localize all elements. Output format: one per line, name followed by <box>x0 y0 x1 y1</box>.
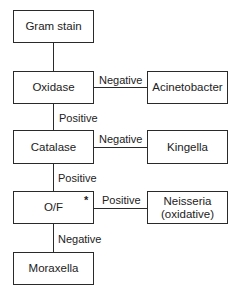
node-of: O/F <box>13 191 94 224</box>
connector-of-to-neisseria <box>94 208 147 209</box>
node-oxidase-label: Oxidase <box>32 81 74 94</box>
node-kingella: Kingella <box>147 130 228 164</box>
node-acinetobacter: Acinetobacter <box>147 71 228 104</box>
node-catalase: Catalase <box>13 130 94 164</box>
node-neisseria: Neisseria(oxidative) <box>147 191 228 224</box>
edge-label-of-positive: Positive <box>102 194 141 206</box>
connector-oxidase-to-acinetobacter <box>94 87 147 88</box>
node-neisseria-label: Neisseria(oxidative) <box>161 195 214 221</box>
edge-label-catalase-negative: Negative <box>99 133 142 145</box>
node-moraxella-label: Moraxella <box>29 262 79 275</box>
connector-catalase-to-of <box>53 164 54 191</box>
connector-of-to-moraxella <box>53 224 54 252</box>
edge-label-catalase-positive: Positive <box>58 172 97 184</box>
edge-label-of-negative: Negative <box>58 233 101 245</box>
node-of-label: O/F <box>44 201 63 214</box>
node-moraxella: Moraxella <box>13 252 94 285</box>
node-gram-stain-label: Gram stain <box>25 20 81 33</box>
connector-oxidase-to-catalase <box>53 104 54 130</box>
edge-label-oxidase-positive: Positive <box>59 112 98 124</box>
connector-catalase-to-kingella <box>94 147 147 148</box>
node-acinetobacter-label: Acinetobacter <box>152 81 222 94</box>
node-oxidase: Oxidase <box>13 71 94 104</box>
node-gram-stain: Gram stain <box>13 10 94 43</box>
node-catalase-label: Catalase <box>31 141 76 154</box>
asterisk-marker: * <box>84 195 88 205</box>
node-kingella-label: Kingella <box>167 141 208 154</box>
connector-gram-to-oxidase <box>53 43 54 71</box>
edge-label-oxidase-negative: Negative <box>99 74 142 86</box>
